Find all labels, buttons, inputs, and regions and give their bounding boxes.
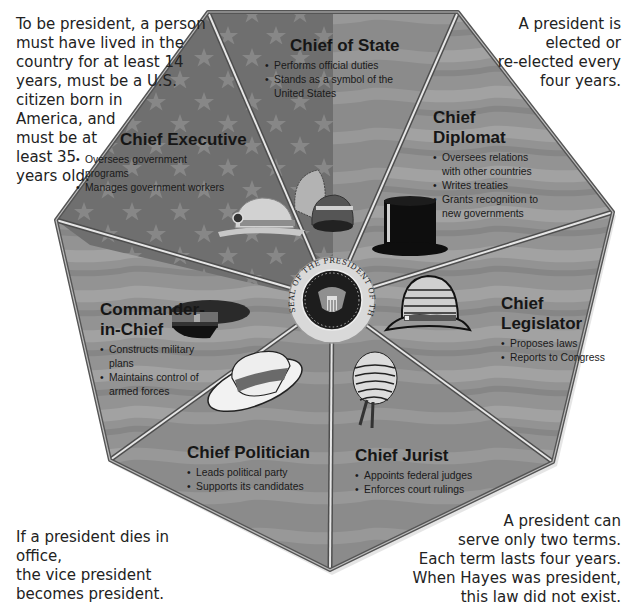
note-line: A president can — [381, 512, 621, 531]
role-title: Chief — [433, 108, 583, 128]
role-duties: Oversees governmentprograms Manages gove… — [76, 152, 266, 194]
role-title: in-Chief — [100, 320, 230, 340]
role-duties: Oversees relationswith other countries W… — [433, 150, 583, 220]
role-chief-legislator: Chief Legislator Proposes laws Reports t… — [501, 294, 621, 364]
note-line: When Hayes was president, — [381, 569, 621, 588]
note-succession: If a president dies in office, the vice … — [16, 528, 216, 603]
note-line: Each term lasts four years. — [381, 550, 621, 569]
role-chief-of-state: Chief of State Performs official duties … — [265, 36, 465, 100]
role-chief-diplomat: Chief Diplomat Oversees relationswith ot… — [433, 108, 583, 220]
duty-item: Grants recognition tonew governments — [433, 192, 568, 220]
note-line: A president is — [461, 15, 621, 34]
duty-item: Writes treaties — [433, 178, 568, 192]
role-chief-jurist: Chief Jurist Appoints federal judges Enf… — [355, 446, 525, 496]
role-duties: Performs official duties Stands as a sym… — [265, 58, 465, 100]
note-election: A president is elected or re-elected eve… — [461, 15, 621, 91]
role-title: Legislator — [501, 314, 621, 334]
note-line: If a president dies in office, — [16, 528, 216, 566]
role-duties: Leads political party Supports its candi… — [187, 465, 337, 493]
duty-item: Oversees relationswith other countries — [433, 150, 568, 178]
note-line: becomes president. — [16, 585, 216, 603]
role-title: Chief Jurist — [355, 446, 525, 466]
role-commander-in-chief: Commander- in-Chief Constructs militaryp… — [100, 300, 230, 398]
note-line: elected or — [461, 34, 621, 53]
role-title: Diplomat — [433, 128, 583, 148]
duty-item: Manages government workers — [76, 180, 247, 194]
note-line: serve only two terms. — [381, 531, 621, 550]
note-line: re-elected every — [461, 53, 621, 72]
duty-item: Oversees governmentprograms — [76, 152, 247, 180]
duty-item: Appoints federal judges — [355, 468, 508, 482]
role-title: Chief Politician — [187, 443, 337, 463]
note-line: this law did not exist. — [381, 588, 621, 603]
note-line: must have lived in the — [16, 34, 216, 53]
role-title: Chief Executive — [120, 130, 266, 150]
role-chief-executive: Chief Executive Oversees governmentprogr… — [76, 130, 266, 194]
duty-item: Supports its candidates — [187, 479, 322, 493]
role-duties: Proposes laws Reports to Congress — [501, 336, 621, 364]
duty-item: Stands as a symbol of theUnited States — [265, 72, 445, 100]
note-line: country for at least 14 — [16, 53, 216, 72]
role-title: Commander- — [100, 300, 230, 320]
role-title: Chief of State — [290, 36, 465, 56]
note-line: America, and — [16, 110, 216, 129]
duty-item: Reports to Congress — [501, 350, 609, 364]
note-line: years, must be a U.S. — [16, 72, 216, 91]
note-line: four years. — [461, 72, 621, 91]
duty-item: Proposes laws — [501, 336, 609, 350]
role-duties: Constructs militaryplans Maintains contr… — [100, 342, 230, 398]
role-duties: Appoints federal judges Enforces court r… — [355, 468, 525, 496]
note-line: To be president, a person — [16, 15, 216, 34]
note-term-limits: A president can serve only two terms. Ea… — [381, 512, 621, 603]
note-line: citizen born in — [16, 91, 216, 110]
role-chief-politician: Chief Politician Leads political party S… — [187, 443, 337, 493]
duty-item: Enforces court rulings — [355, 482, 508, 496]
duty-item: Constructs militaryplans — [100, 342, 217, 370]
note-line: the vice president — [16, 566, 216, 585]
duty-item: Maintains control ofarmed forces — [100, 370, 217, 398]
duty-item: Performs official duties — [265, 58, 445, 72]
duty-item: Leads political party — [187, 465, 322, 479]
role-title: Chief — [501, 294, 621, 314]
